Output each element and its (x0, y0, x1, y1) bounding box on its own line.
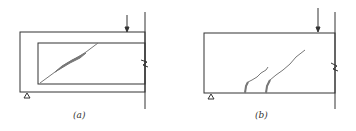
flexure-shear-crack-1 (245, 67, 268, 93)
load-arrow-icon (316, 8, 320, 32)
caption-b: (b) (255, 110, 268, 120)
shear-crack-a (40, 43, 98, 83)
figure-canvas (0, 0, 356, 131)
support-triangle-icon (24, 93, 30, 98)
break-mark-icon (141, 60, 148, 67)
flexure-shear-crack-2 (266, 50, 305, 93)
beam-outer-b (204, 33, 335, 93)
support-triangle-icon (208, 94, 214, 99)
beam-inner-a (38, 43, 145, 84)
panel-b (204, 8, 338, 109)
panel-a (20, 12, 148, 109)
caption-a: (a) (73, 110, 85, 120)
beam-outer-a (20, 32, 145, 92)
load-arrow-icon (125, 15, 129, 32)
